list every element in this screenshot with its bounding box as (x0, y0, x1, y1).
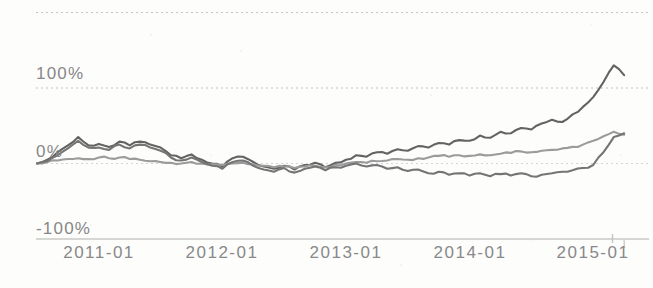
x-tick-label-2012-01: 2012-01 (186, 244, 259, 261)
gridlines (36, 13, 649, 240)
x-tick-label-2011-01: 2011-01 (63, 244, 135, 261)
y-axis-label-neg100: -100% (36, 220, 91, 237)
data-series (37, 65, 624, 176)
x-tick-label-2015-01: 2015-01 (557, 244, 630, 261)
series-3-line (37, 133, 624, 176)
x-tick-label-2014-01: 2014-01 (434, 244, 507, 261)
series-2-line (37, 132, 624, 168)
y-axis-label-100: 100% (36, 65, 84, 82)
y-axis-label-0: 0% (36, 143, 63, 160)
series-1-line (37, 65, 624, 169)
chart-figure: 100% 0% -100% 2011-012012-012013-012014-… (0, 0, 653, 288)
x-tick-label-2013-01: 2013-01 (310, 244, 383, 261)
